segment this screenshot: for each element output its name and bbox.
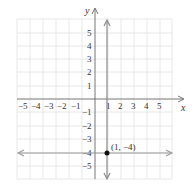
point-1-neg4	[105, 151, 110, 156]
x-axis-label: x	[180, 102, 186, 113]
y-tick-label: 1	[87, 81, 92, 91]
x-tick-label: 2	[118, 101, 123, 111]
y-tick-label: −5	[82, 161, 92, 171]
y-tick-label: 2	[87, 67, 92, 77]
y-tick-label: 4	[87, 41, 92, 51]
y-tick-label: −3	[82, 134, 92, 144]
y-tick-label: −1	[82, 107, 92, 117]
y-axis-label: y	[84, 5, 90, 16]
point-label: (1, −4)	[111, 142, 136, 152]
y-tick-label: −2	[82, 121, 92, 131]
y-tick-label: 5	[87, 28, 92, 38]
x-tick-label: 3	[131, 101, 136, 111]
x-tick-label: −1	[71, 101, 81, 111]
x-tick-label: 5	[157, 101, 162, 111]
x-tick-label: −4	[31, 101, 41, 111]
y-tick-label: 3	[87, 54, 92, 64]
x-tick-label: −2	[57, 101, 67, 111]
x-tick-label: −3	[44, 101, 54, 111]
coordinate-plane: x y −5 −4 −3 −2 −1 1 2 3 4 5 5 4 3 2 1 −…	[0, 0, 195, 191]
x-tick-label: 4	[144, 101, 149, 111]
x-tick-label: −5	[18, 101, 28, 111]
